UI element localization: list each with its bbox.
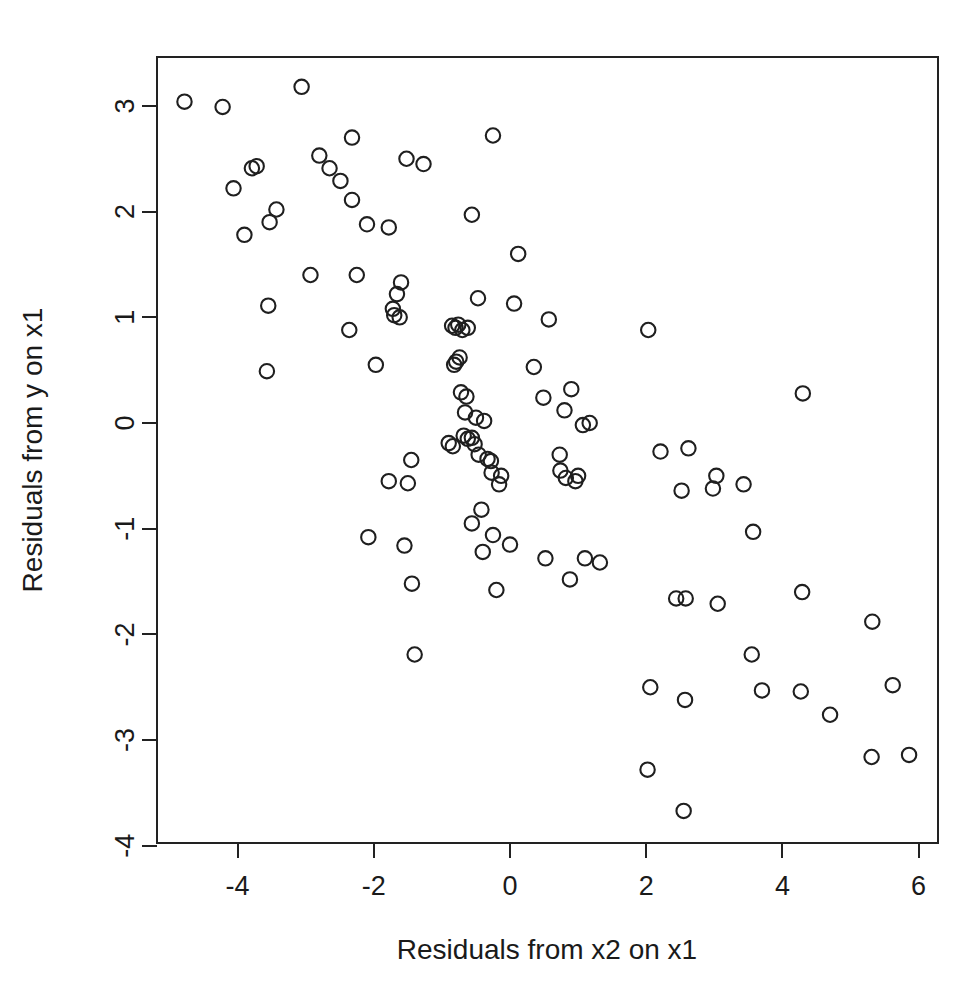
x-tick-label: -2 [362,871,386,901]
plot-canvas: -4-20246 3210-1-2-3-4 Residuals from x2 … [0,0,978,1006]
y-tick-label: 2 [110,204,140,219]
y-tick-label: -1 [110,517,140,541]
y-tick-label: -4 [110,834,140,858]
scatter-plot-figure: -4-20246 3210-1-2-3-4 Residuals from x2 … [0,0,978,1006]
x-tick-label: 2 [639,871,654,901]
x-tick-label: -4 [226,871,250,901]
y-tick-label: -2 [110,622,140,646]
x-tick-label: 4 [775,871,790,901]
x-tick-label: 0 [502,871,517,901]
x-axis-title: Residuals from x2 on x1 [397,934,697,965]
y-axis-title: Residuals from y on x1 [17,308,48,593]
y-tick-label: 1 [110,310,140,325]
figure-background [0,0,978,1006]
x-tick-label: 6 [911,871,926,901]
y-tick-label: -3 [110,728,140,752]
y-tick-label: 3 [110,98,140,113]
y-tick-label: 0 [110,415,140,430]
